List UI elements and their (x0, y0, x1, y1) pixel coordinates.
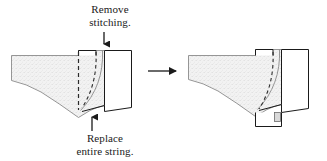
fabric-body-before (12, 51, 105, 118)
panel-after (189, 50, 309, 127)
notch-shaded-after (275, 113, 281, 122)
figure-canvas: Remove stitching. Replace entire string. (0, 0, 327, 161)
top-tab-after (256, 50, 274, 56)
diagram-graphics (0, 0, 327, 161)
top-tab-before (79, 51, 97, 56)
fabric-body-after (189, 50, 282, 117)
panel-before (12, 32, 132, 131)
flap-before (105, 51, 132, 112)
flap-after (282, 50, 309, 113)
